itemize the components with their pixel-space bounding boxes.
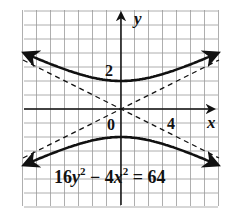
y-axis-label: y	[132, 9, 142, 28]
x-axis-label: x	[206, 113, 216, 132]
y-tick-label-2: 2	[105, 62, 113, 79]
origin-label: 0	[107, 116, 115, 133]
x-tick-label-4: 4	[167, 115, 175, 132]
hyperbola-graph: y x 2 4 0 16y2 − 4x2 = 64	[0, 0, 230, 214]
equation-label: 16y2 − 4x2 = 64	[54, 165, 166, 187]
